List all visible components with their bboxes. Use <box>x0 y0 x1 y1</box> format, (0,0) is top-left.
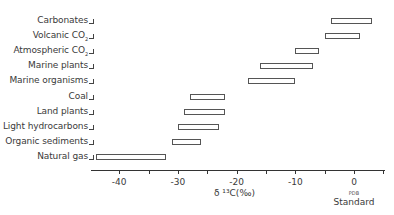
row-tick-mark <box>89 49 94 54</box>
category-label: Carbonates <box>37 15 88 25</box>
isotope-range-chart: CarbonatesVolcanic CO2Atmospheric CO2Mar… <box>0 0 394 215</box>
x-tick <box>237 170 238 174</box>
range-bar <box>184 109 225 115</box>
category-label: Marine plants <box>28 60 88 70</box>
row-tick-mark <box>89 125 94 130</box>
standard-annotation: Standard <box>334 197 375 207</box>
range-bar <box>295 48 318 54</box>
x-tick <box>325 170 326 174</box>
x-tick <box>354 170 355 174</box>
row-tick-mark <box>89 95 94 100</box>
x-tick <box>149 170 150 174</box>
range-bar <box>260 63 313 69</box>
x-tick-label: -40 <box>112 177 127 187</box>
x-axis-line <box>91 170 385 171</box>
row-tick-mark <box>89 155 94 160</box>
range-bar <box>325 33 360 39</box>
row-tick-mark <box>89 19 94 24</box>
range-bar <box>172 139 201 145</box>
category-label: Natural gas <box>37 151 88 161</box>
category-label: Atmospheric CO2 <box>13 45 88 59</box>
category-label: Light hydrocarbons <box>3 121 88 131</box>
x-tick-label: -30 <box>171 177 186 187</box>
x-tick <box>119 170 120 174</box>
pdb-annotation: PDB <box>349 190 359 196</box>
x-tick <box>266 170 267 174</box>
x-tick <box>207 170 208 174</box>
x-tick-label: 0 <box>351 177 357 187</box>
x-tick-label: -20 <box>229 177 244 187</box>
x-tick <box>178 170 179 174</box>
range-bar <box>331 18 372 24</box>
x-axis-label: δ ¹³C(‰) <box>214 188 255 198</box>
range-bar <box>96 154 166 160</box>
row-tick-mark <box>89 34 94 39</box>
x-tick <box>383 170 384 174</box>
range-bar <box>178 124 219 130</box>
row-tick-mark <box>89 110 94 115</box>
row-tick-mark <box>89 64 94 69</box>
row-tick-mark <box>89 140 94 145</box>
category-label: Land plants <box>37 106 88 116</box>
x-tick-label: -10 <box>288 177 303 187</box>
category-label: Coal <box>69 91 88 101</box>
category-label: Organic sediments <box>5 136 88 146</box>
range-bar <box>190 94 225 100</box>
row-tick-mark <box>89 79 94 84</box>
range-bar <box>248 78 295 84</box>
category-label: Volcanic CO2 <box>33 30 88 44</box>
category-label: Marine organisms <box>9 75 88 85</box>
x-tick <box>295 170 296 174</box>
